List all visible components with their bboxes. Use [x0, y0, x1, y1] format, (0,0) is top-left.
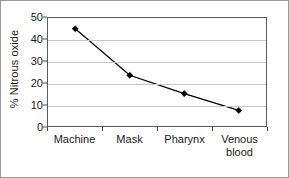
y-tick-mark	[43, 83, 47, 84]
x-tick-label-line: blood	[221, 146, 258, 159]
y-axis-title-text: % Nitrous oxide	[8, 30, 20, 109]
y-axis-tick-labels: 01020304050	[23, 17, 43, 127]
y-tick-mark	[43, 39, 47, 40]
y-tick-label: 40	[31, 33, 43, 45]
gridline	[48, 40, 266, 41]
x-tick-label-line: Machine	[54, 133, 96, 145]
x-tick-label-line: Mask	[116, 133, 142, 145]
y-tick-mark	[43, 105, 47, 106]
y-tick-label: 30	[31, 55, 43, 67]
data-point-marker	[181, 91, 187, 97]
x-tick-label-line: Pharynx	[164, 133, 204, 145]
chart-figure: % Nitrous oxide 01020304050 MachineMaskP…	[0, 0, 289, 178]
plot-area	[47, 17, 267, 127]
y-tick-mark	[43, 61, 47, 62]
x-tick-label-line: Venous	[221, 133, 258, 145]
x-tick-label: Pharynx	[164, 133, 204, 146]
gridline	[48, 106, 266, 107]
y-tick-label: 20	[31, 77, 43, 89]
y-tick-mark	[43, 17, 47, 18]
x-tick-mark	[157, 127, 158, 131]
gridline	[48, 84, 266, 85]
y-tick-label: 10	[31, 99, 43, 111]
x-tick-mark	[212, 127, 213, 131]
x-tick-mark	[102, 127, 103, 131]
series-nitrous-oxide	[48, 18, 266, 126]
x-axis-tick-labels: MachineMaskPharynxVenousblood	[47, 133, 267, 173]
x-tick-label: Venousblood	[221, 133, 258, 159]
y-tick-label: 50	[31, 11, 43, 23]
y-axis-title: % Nitrous oxide	[5, 1, 23, 137]
x-tick-label: Mask	[116, 133, 142, 146]
series-line	[75, 29, 239, 111]
x-tick-mark	[47, 127, 48, 131]
gridline	[48, 62, 266, 63]
data-point-marker	[236, 107, 242, 113]
x-tick-mark	[267, 127, 268, 131]
x-tick-label: Machine	[54, 133, 96, 146]
